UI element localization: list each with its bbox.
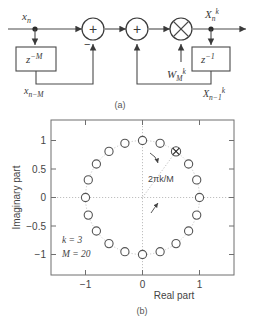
data-point [193,176,201,184]
delay-m-output-label: xn−M [23,85,44,99]
input-signal-label: xn [21,10,31,25]
panel-a-block-diagram: xn z−M xn−M + − + WMk Xnk z−1 Xn−1 [0,0,253,112]
data-point [195,193,203,201]
output-signal-label: Xnk [204,7,219,23]
twiddle-factor-label: WMk [167,67,186,83]
angle-annotation-label: 2πk/M [148,174,174,184]
panel-b-caption: (b) [137,306,148,316]
panel-b-unit-circle-plot: 1 0.5 0 −0.5 −1 −1 0 1 Real part Imagina… [0,112,253,322]
data-point [92,160,100,168]
data-point [172,240,180,248]
figure-page: xn z−M xn−M + − + WMk Xnk z−1 Xn−1 [0,0,253,322]
data-point [193,211,201,219]
adder-1-minus-sign: − [84,38,90,50]
data-point [121,248,129,256]
selected-point-layer [171,147,180,156]
data-point [84,176,92,184]
data-point [81,193,89,201]
y-tick-label-neg1: −1 [35,249,47,260]
x-axis-label: Real part [154,290,195,301]
data-point [105,147,113,155]
y-tick-label-0: 0 [40,192,46,203]
data-point [105,240,113,248]
data-point [138,136,146,144]
data-point [84,211,92,219]
data-point [185,160,193,168]
data-point [156,248,164,256]
delay-1-output-label: Xn−1k [202,86,226,102]
y-axis-label: Imaginary part [11,165,22,229]
param-k-label: k = 3 [62,235,82,245]
adder-2-plus-symbol: + [133,21,141,37]
adder-1-plus-symbol: + [89,21,97,37]
panel-a-caption: (a) [115,100,126,110]
data-point [156,139,164,147]
y-tick-label-0point5: 0.5 [32,164,46,175]
data-point [92,227,100,235]
angle-arrow-lower [151,203,158,213]
data-point [121,139,129,147]
x-tick-label-neg1: −1 [80,279,92,290]
y-tick-label-1: 1 [40,135,46,146]
x-tick-label-0: 0 [140,279,146,290]
param-m-label: M = 20 [61,249,91,259]
data-point [185,227,193,235]
x-tick-label-1: 1 [197,279,203,290]
y-tick-label-neg0point5: −0.5 [26,221,46,232]
angle-arrow-upper [150,153,158,163]
data-point [138,250,146,258]
